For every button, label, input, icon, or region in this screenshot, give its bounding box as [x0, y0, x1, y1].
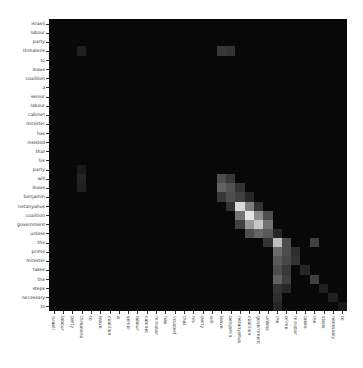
heatmap-cell	[207, 56, 217, 65]
x-tick-label: will	[209, 316, 214, 324]
heatmap-cell	[282, 183, 292, 192]
heatmap-cell	[217, 265, 227, 274]
heatmap-cell	[124, 165, 134, 174]
heatmap-cell	[151, 37, 161, 46]
heatmap-cell	[161, 56, 171, 65]
heatmap-cell	[124, 265, 134, 274]
heatmap-cell	[300, 293, 310, 302]
heatmap-cell	[179, 110, 189, 119]
y-tick-mark	[46, 51, 49, 52]
heatmap-cell	[282, 293, 292, 302]
heatmap-cell	[151, 19, 161, 28]
heatmap-cell	[142, 19, 152, 28]
heatmap-cell	[226, 302, 236, 311]
heatmap-cell	[105, 156, 115, 165]
heatmap-cell	[161, 65, 171, 74]
heatmap-cell	[263, 56, 273, 65]
heatmap-cell	[300, 65, 310, 74]
heatmap-cell	[254, 65, 264, 74]
heatmap-cell	[198, 275, 208, 284]
heatmap-cell	[114, 110, 124, 119]
heatmap-cell	[49, 256, 59, 265]
heatmap-cell	[319, 92, 329, 101]
heatmap-cell	[254, 138, 264, 147]
heatmap-cell	[86, 28, 96, 37]
x-tick-label: labour	[135, 316, 140, 331]
heatmap-cell	[328, 147, 338, 156]
heatmap-cell	[68, 202, 78, 211]
heatmap-cell	[151, 119, 161, 128]
heatmap-cell	[142, 284, 152, 293]
heatmap-cell	[114, 174, 124, 183]
x-tick-mark	[156, 311, 157, 314]
heatmap-cell	[198, 192, 208, 201]
heatmap-cell	[86, 19, 96, 28]
heatmap-cell	[282, 275, 292, 284]
y-tick-label: minister	[26, 119, 45, 128]
heatmap-cell	[254, 119, 264, 128]
heatmap-cell	[198, 147, 208, 156]
heatmap-cell	[96, 46, 106, 55]
heatmap-cell	[58, 74, 68, 83]
heatmap-cell	[328, 65, 338, 74]
y-tick-label: senior	[31, 92, 45, 101]
heatmap-cell	[161, 211, 171, 220]
heatmap-cell	[68, 83, 78, 92]
y-tick-mark	[46, 270, 49, 271]
heatmap-cell	[114, 220, 124, 229]
heatmap-cell	[310, 293, 320, 302]
heatmap-cell	[245, 92, 255, 101]
heatmap-cell	[86, 275, 96, 284]
heatmap-cell	[282, 147, 292, 156]
heatmap-cell	[49, 211, 59, 220]
heatmap-cell	[77, 192, 87, 201]
heatmap-cell	[142, 256, 152, 265]
heatmap-cell	[96, 192, 106, 201]
heatmap-cell	[58, 119, 68, 128]
heatmap-cell	[189, 275, 199, 284]
y-tick-label: the	[37, 275, 45, 284]
heatmap-cell	[114, 101, 124, 110]
heatmap-cell	[68, 165, 78, 174]
heatmap-cell	[328, 101, 338, 110]
heatmap-cell	[77, 156, 87, 165]
heatmap-cell	[235, 65, 245, 74]
heatmap-cell	[124, 92, 134, 101]
heatmap-cell	[77, 211, 87, 220]
heatmap-cell	[49, 119, 59, 128]
x-tick-label: coalition	[107, 316, 112, 336]
y-tick-label: the	[37, 238, 45, 247]
heatmap-cell	[273, 119, 283, 128]
heatmap-cell	[338, 247, 348, 256]
heatmap-cell	[58, 138, 68, 147]
heatmap-cell	[86, 192, 96, 201]
heatmap-cell	[273, 28, 283, 37]
heatmap-cell	[319, 192, 329, 201]
heatmap-cell	[300, 110, 310, 119]
heatmap-cell	[198, 37, 208, 46]
heatmap-cell	[226, 229, 236, 238]
heatmap-cell	[105, 19, 115, 28]
heatmap-cell	[77, 119, 87, 128]
x-tick-label: netanyahus	[237, 316, 242, 343]
heatmap-cell	[96, 165, 106, 174]
heatmap-cell	[263, 284, 273, 293]
heatmap-cell	[226, 138, 236, 147]
heatmap-cell	[170, 83, 180, 92]
heatmap-cell	[263, 256, 273, 265]
heatmap-cell	[96, 275, 106, 284]
heatmap-cell	[310, 211, 320, 220]
heatmap-cell	[133, 156, 143, 165]
heatmap-cell	[77, 238, 87, 247]
heatmap-cell	[170, 19, 180, 28]
heatmap-cell	[86, 92, 96, 101]
heatmap-cell	[300, 192, 310, 201]
heatmap-cell	[189, 202, 199, 211]
heatmap-cell	[170, 37, 180, 46]
heatmap-cell	[68, 110, 78, 119]
heatmap-cell	[291, 74, 301, 83]
heatmap-cell	[328, 238, 338, 247]
heatmap-cell	[114, 293, 124, 302]
heatmap-cell	[291, 229, 301, 238]
heatmap-cell	[263, 156, 273, 165]
